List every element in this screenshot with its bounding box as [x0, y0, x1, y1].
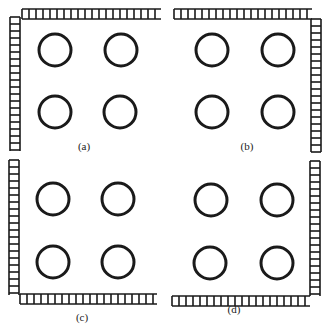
- wall-ladder-horizontal: [172, 296, 310, 306]
- wall-ladder-horizontal: [20, 294, 157, 304]
- ring-circle: [39, 34, 71, 66]
- panel-label-a: (a): [78, 140, 91, 153]
- panel-label-c: (c): [76, 311, 89, 324]
- ring-circle: [37, 246, 69, 278]
- ring-circle: [262, 96, 294, 128]
- panel-label-d: (d): [228, 303, 241, 316]
- ring-circle: [194, 247, 226, 279]
- wall-ladder-horizontal: [174, 9, 312, 19]
- ring-circle: [102, 246, 134, 278]
- figure-canvas: (a)(b)(c)(d): [0, 0, 331, 331]
- ring-circle: [105, 34, 137, 66]
- panel-c: (c): [9, 160, 157, 324]
- panel-label-b: (b): [241, 140, 254, 153]
- ring-circle: [39, 96, 71, 128]
- ring-circle: [102, 183, 134, 215]
- panel-a: (a): [10, 9, 161, 153]
- ring-circle: [195, 184, 227, 216]
- wall-ladder-vertical: [9, 160, 19, 295]
- wall-ladder-vertical: [311, 19, 321, 152]
- ring-circle: [196, 96, 228, 128]
- ring-circle: [196, 34, 228, 66]
- ring-circle: [37, 183, 69, 215]
- ring-circle: [261, 184, 293, 216]
- panel-b: (b): [174, 9, 321, 153]
- wall-ladder-horizontal: [22, 9, 161, 19]
- wall-ladder-vertical: [10, 17, 20, 151]
- ring-circle: [262, 34, 294, 66]
- wall-ladder-vertical: [310, 161, 320, 296]
- panel-d: (d): [172, 161, 320, 316]
- ring-circle: [261, 247, 293, 279]
- ring-circle: [104, 96, 136, 128]
